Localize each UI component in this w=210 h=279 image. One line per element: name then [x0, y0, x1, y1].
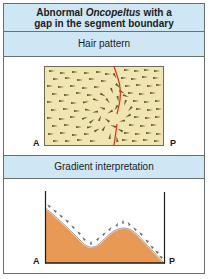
- gradient-axis-label-posterior: P: [169, 256, 175, 266]
- gradient-fill: [46, 208, 165, 263]
- gradient-diagram: [0, 0, 210, 279]
- gradient-axis-label-anterior: A: [33, 256, 40, 266]
